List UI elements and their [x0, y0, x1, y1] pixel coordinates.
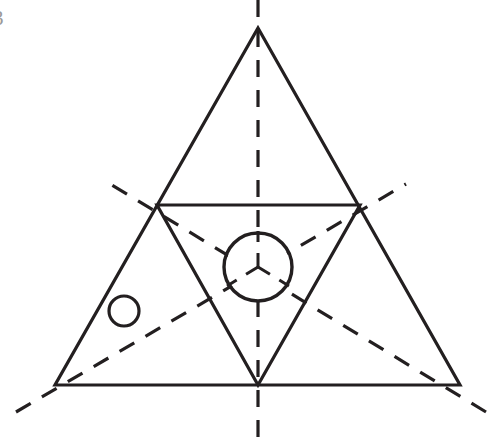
small-circle [109, 296, 139, 326]
figure-root: 3 [0, 0, 499, 442]
geometry-canvas [0, 0, 499, 442]
median-lower-right-to-upper-left [112, 185, 486, 412]
edge-glyph-label: 3 [0, 8, 4, 29]
